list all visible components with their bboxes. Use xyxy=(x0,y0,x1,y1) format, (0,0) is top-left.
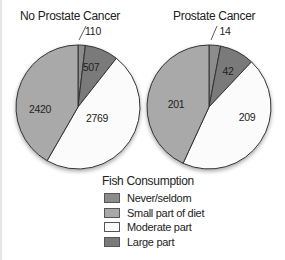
right-label-small: 201 xyxy=(168,98,185,110)
legend-label: Never/seldom xyxy=(127,192,191,204)
legend-item-large: Large part xyxy=(104,235,204,250)
legend-swatch-moderate xyxy=(104,222,120,232)
legend-label: Moderate part xyxy=(127,221,192,233)
legend-item-small: Small part of diet xyxy=(104,206,204,221)
right-label-never: 14 xyxy=(219,25,230,37)
legend-item-never: Never/seldom xyxy=(104,191,204,206)
right-label-moderate: 209 xyxy=(239,111,256,123)
legend-swatch-large xyxy=(104,237,120,247)
right-pie-title: Prostate Cancer xyxy=(173,9,255,23)
leader-line-right xyxy=(211,26,217,40)
legend-swatch-never xyxy=(104,193,120,203)
pie-prostate-cancer xyxy=(147,45,271,169)
legend-title: Fish Consumption xyxy=(102,174,204,188)
left-label-moderate: 2769 xyxy=(86,112,108,124)
left-pie-title: No Prostate Cancer xyxy=(20,9,120,23)
left-label-large: 507 xyxy=(83,61,100,73)
left-label-never: 110 xyxy=(85,25,101,37)
right-label-large: 42 xyxy=(222,65,233,77)
legend-swatch-small xyxy=(104,208,120,218)
legend: Fish Consumption Never/seldom Small part… xyxy=(104,174,204,249)
legend-label: Large part xyxy=(127,236,174,248)
legend-label: Small part of diet xyxy=(127,207,204,219)
legend-item-moderate: Moderate part xyxy=(104,220,204,235)
left-label-small: 2420 xyxy=(29,103,51,115)
